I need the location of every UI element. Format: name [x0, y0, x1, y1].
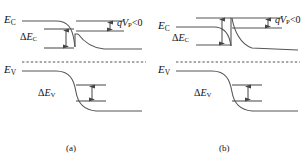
- label-bias-a: qVP<0: [117, 18, 143, 29]
- conduction-band-notch-a: [75, 34, 78, 47]
- ec-subscript-b: C: [165, 24, 170, 33]
- conduction-band-right-a: [78, 34, 142, 49]
- label-valence-band-a: EV: [4, 64, 16, 76]
- ev-subscript-b: V: [165, 68, 170, 77]
- ec-symbol-a: E: [4, 13, 11, 25]
- label-conduction-offset-b: ΔEC: [172, 33, 189, 44]
- dec-subscript-a: C: [33, 35, 38, 42]
- dec-subscript-b: C: [185, 36, 190, 43]
- panel-caption-a: (a): [66, 143, 76, 153]
- label-valence-band-b: EV: [158, 64, 170, 76]
- bias-relation-a: <0: [132, 17, 143, 28]
- dev-subscript-b: V: [207, 91, 212, 98]
- band-diagram-canvas: [0, 0, 305, 165]
- band-diagram-figure: EC ΔEC qVP<0 EV ΔEV (a) EC ΔEC qVP<0 EV …: [0, 0, 305, 165]
- ev-symbol-a: E: [4, 63, 11, 75]
- ev-subscript-a: V: [11, 68, 16, 77]
- label-conduction-offset-a: ΔEC: [20, 32, 37, 43]
- label-conduction-band-b: EC: [158, 20, 170, 32]
- panel-b-arrows: [222, 20, 268, 100]
- bias-relation-b: <0: [290, 14, 301, 25]
- label-conduction-band-a: EC: [4, 14, 16, 26]
- ec-subscript-a: C: [11, 18, 16, 27]
- label-valence-offset-a: ΔEV: [38, 88, 55, 99]
- dev-subscript-a: V: [51, 91, 56, 98]
- label-valence-offset-b: ΔEV: [194, 88, 211, 99]
- ec-symbol-b: E: [158, 19, 165, 31]
- label-bias-b: qVP<0: [275, 15, 301, 26]
- ev-symbol-b: E: [158, 63, 165, 75]
- panel-caption-b: (b): [219, 143, 230, 153]
- conduction-band-spike-b: [231, 18, 232, 46]
